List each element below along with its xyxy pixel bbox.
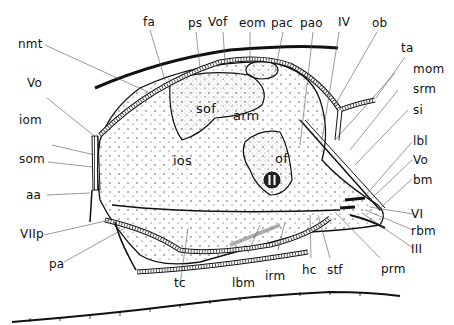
label-VIIp: VIIp: [20, 228, 44, 240]
label-nmt: nmt: [18, 38, 43, 50]
anatomical-diagram: fa ps Vof eom pac pao IV ob ta mom srm s…: [0, 0, 454, 325]
eom-region: [246, 61, 278, 79]
label-VI: VI: [411, 208, 423, 220]
label-som: som: [19, 153, 45, 165]
label-tc: tc: [174, 277, 186, 289]
label-lbm: lbm: [232, 277, 255, 289]
label-iom: iom: [19, 114, 42, 126]
label-hc: hc: [302, 264, 317, 276]
ventral-skin-outline: [12, 292, 400, 322]
label-Vo-left: Vo: [27, 77, 42, 89]
label-aa: aa: [26, 189, 41, 201]
optic-nerve-II: [264, 172, 280, 188]
label-stf: stf: [327, 264, 343, 276]
label-arm: arm: [233, 109, 259, 122]
label-eom: eom: [239, 17, 266, 29]
label-bm: bm: [413, 174, 433, 186]
label-prm: prm: [381, 263, 406, 275]
label-IV: IV: [338, 16, 350, 28]
label-ios: ios: [173, 154, 192, 167]
label-irm: irm: [265, 270, 285, 282]
label-pac: pac: [271, 17, 293, 29]
label-ta: ta: [401, 42, 413, 54]
label-rbm: rbm: [411, 225, 436, 237]
label-Vof: Vof: [208, 16, 227, 28]
label-ps: ps: [188, 17, 202, 29]
label-of: of: [275, 152, 288, 165]
label-mom: mom: [413, 63, 444, 75]
label-sof: sof: [196, 102, 216, 115]
label-pao: pao: [300, 17, 323, 29]
label-ob: ob: [372, 17, 387, 29]
label-lbl: lbl: [413, 135, 428, 147]
label-pa: pa: [49, 258, 64, 270]
label-fa: fa: [143, 16, 155, 28]
label-Vo-right: Vo: [413, 154, 428, 166]
label-si: si: [413, 104, 423, 116]
diagram-drawing: [0, 0, 454, 325]
label-III: III: [411, 243, 422, 255]
label-srm: srm: [413, 83, 436, 95]
